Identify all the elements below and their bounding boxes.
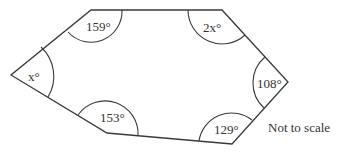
angle-arc-left (41, 47, 54, 97)
angle-label-x: x° (28, 69, 40, 84)
angle-label-129: 129° (214, 122, 239, 137)
not-to-scale-note: Not to scale (268, 120, 330, 135)
angle-label-153: 153° (100, 110, 125, 125)
hexagon-outline (11, 10, 288, 144)
angle-label-159: 159° (86, 19, 111, 34)
angle-label-2x: 2x° (203, 20, 221, 35)
hexagon-diagram: 159° 2x° 108° 129° 153° x° Not to scale (0, 0, 340, 152)
angle-label-108: 108° (257, 76, 282, 91)
